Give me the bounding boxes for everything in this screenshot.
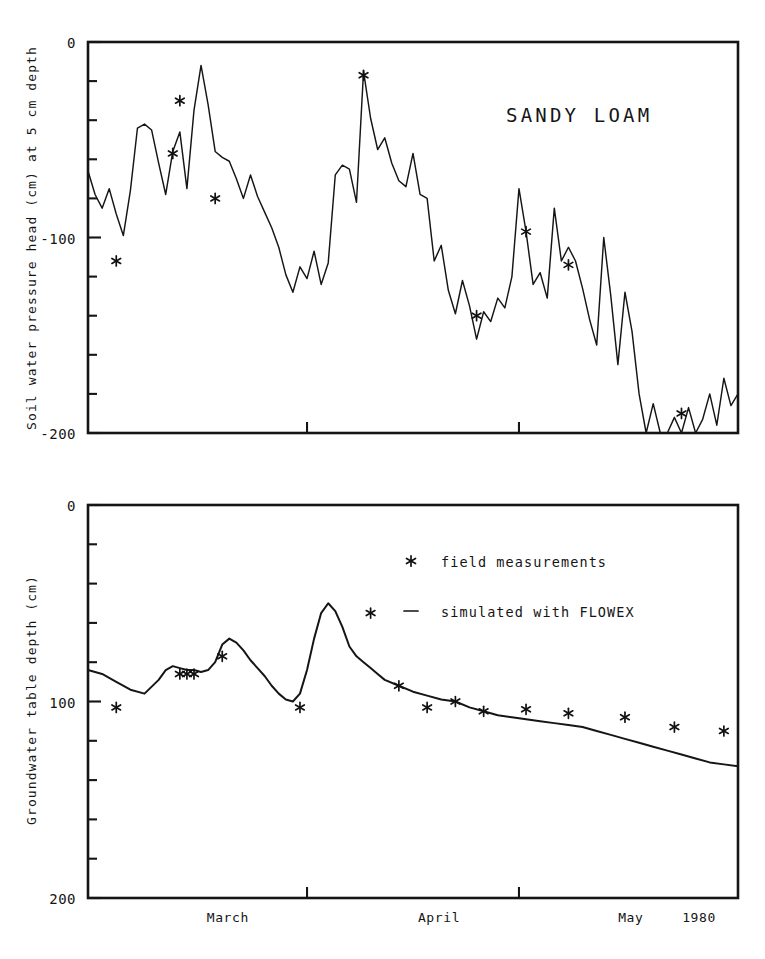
- asterisk-marker: [112, 702, 121, 712]
- asterisk-marker: [522, 704, 531, 714]
- top-y-axis-label: Soil water pressure head (cm) at 5 cm de…: [24, 46, 39, 430]
- legend: field measurements simulated with FLOWEX: [404, 554, 635, 620]
- asterisk-marker: [472, 311, 481, 321]
- legend-label-simulated: simulated with FLOWEX: [441, 604, 635, 620]
- x-axis-label: April: [418, 910, 460, 925]
- asterisk-marker: [621, 712, 630, 722]
- asterisk-marker: [670, 722, 679, 732]
- asterisk-marker: [423, 702, 432, 712]
- x-axis-label: March: [207, 910, 249, 925]
- asterisk-marker: [564, 708, 573, 718]
- chart-title-sandy-loam: SANDY LOAM: [506, 104, 652, 126]
- top-axis-ticks: [88, 42, 519, 433]
- top-y-tick-labels: 0-100-200: [40, 35, 76, 442]
- bottom-plot-frame: [88, 505, 738, 898]
- asterisk-marker: [522, 227, 531, 237]
- asterisk-marker: [296, 702, 305, 712]
- bottom-y-tick-labels: 0100200: [49, 498, 76, 907]
- bottom-simulated-line: [88, 603, 738, 766]
- top-plot-frame: [88, 42, 738, 433]
- x-axis-label: 1980: [682, 910, 716, 925]
- panel-groundwater-table-depth: 0100200 Groundwater table depth (cm) fie…: [24, 498, 738, 925]
- figure-root: 0-100-200 SANDY LOAM Soil water pressure…: [0, 0, 765, 959]
- panel-soil-water-pressure-head: 0-100-200 SANDY LOAM Soil water pressure…: [24, 35, 738, 442]
- asterisk-marker: [112, 256, 121, 266]
- asterisk-marker: [176, 669, 185, 679]
- y-tick-label: 0: [67, 35, 76, 51]
- x-axis-label: May: [618, 910, 643, 925]
- chart-canvas: 0-100-200 SANDY LOAM Soil water pressure…: [0, 0, 765, 959]
- asterisk-marker: [720, 726, 729, 736]
- asterisk-marker: [677, 408, 686, 418]
- asterisk-marker: [366, 608, 375, 618]
- asterisk-marker: [395, 681, 404, 691]
- x-axis-month-labels: MarchAprilMay1980: [207, 910, 716, 925]
- y-tick-label: -100: [40, 231, 76, 247]
- asterisk-marker: [211, 193, 220, 203]
- y-tick-label: 200: [49, 891, 76, 907]
- y-tick-label: 100: [49, 695, 76, 711]
- bottom-y-axis-label: Groundwater table depth (cm): [24, 575, 39, 825]
- legend-marker-field-measurements: [407, 556, 416, 566]
- asterisk-marker: [176, 96, 185, 106]
- y-tick-label: -200: [40, 426, 76, 442]
- asterisk-marker: [564, 260, 573, 270]
- asterisk-marker: [407, 556, 416, 566]
- asterisk-marker: [359, 70, 368, 80]
- legend-label-field-measurements: field measurements: [441, 554, 607, 570]
- y-tick-label: 0: [67, 498, 76, 514]
- asterisk-marker: [168, 148, 177, 158]
